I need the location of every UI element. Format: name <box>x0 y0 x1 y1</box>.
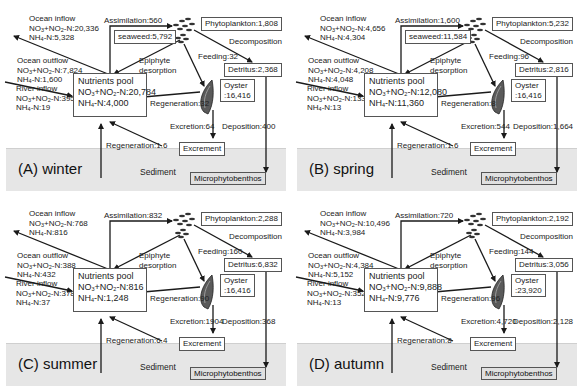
excrement-box: Excrement <box>179 337 225 351</box>
ocean-inflow-nh4: NH4-N:4,304 <box>320 33 385 43</box>
river-inflow-nh4: NH4-N:19 <box>16 103 75 113</box>
assimilation-label: Assimilation:832 <box>104 211 162 221</box>
regeneration-excrement-label: Regeneration:6.4 <box>106 336 167 346</box>
nutrients-pool-box: Nutrients pool NO3+NO2-N:20,784 NH4-N:4,… <box>73 73 147 117</box>
seaweed-box: seaweed:11,584 <box>405 30 471 44</box>
detritus-box: Detritus:2,368 <box>224 63 282 77</box>
river-inflow-label: River inflow NO3+NO2-N:133 NH4-N:13 <box>307 84 366 113</box>
excrement-box: Excrement <box>470 337 516 351</box>
feeding-label: Feeding:144 <box>489 247 533 257</box>
detritus-box: Detritus:2,816 <box>515 63 573 77</box>
detritus-box: Detritus:6,832 <box>224 258 282 272</box>
pool-no3: NO3+NO2-N:20,784 <box>78 87 142 98</box>
feeding-label: Feeding:96 <box>489 52 529 62</box>
feeding-label: Feeding:160 <box>198 247 242 257</box>
excretion-label: Excretion:1904 <box>170 317 223 327</box>
feeding-label: Feeding:32 <box>198 52 238 62</box>
river-inflow-no3: NO3+NO2-N:395 <box>16 94 75 104</box>
regeneration-excrement-label: Regeneration:1.6 <box>106 141 167 151</box>
phytoplankton-icon <box>173 18 195 43</box>
season-panel-autumn: Ocean inflow NO3+NO2-N:10,496 NH4-N:3,98… <box>291 195 581 389</box>
regeneration-oyster-label: Regeneration:90 <box>150 294 209 304</box>
season-title: (B) spring <box>309 160 374 177</box>
decomposition-label: Decomposition <box>520 232 573 242</box>
season-title: (C) summer <box>18 355 97 372</box>
ocean-inflow-no3: NO3+NO2-N:10,496 <box>320 219 390 229</box>
oyster-icon <box>201 275 213 309</box>
pool-nh4: NH4-N:4,000 <box>78 98 142 109</box>
assimilation-label: Assimilation:720 <box>395 211 453 221</box>
assimilation-label: Assimilation:1,600 <box>395 16 460 26</box>
season-title: (A) winter <box>18 160 82 177</box>
regeneration-excrement-label: Regeneration:1.6 <box>397 141 458 151</box>
oyster-box: Oyster :16,416 <box>220 274 255 297</box>
microphytobenthos-box: Microphytobenthos <box>481 172 557 185</box>
regeneration-oyster-label: Regeneration:96 <box>441 294 500 304</box>
ocean-inflow-no3: NO3+NO2-N:768 <box>29 219 88 229</box>
microphytobenthos-box: Microphytobenthos <box>190 367 266 380</box>
river-inflow-no3: NO3+NO2-N:133 <box>307 94 366 104</box>
pool-no3: NO3+NO2-N:12,080 <box>369 87 433 98</box>
decomposition-label: Decomposition <box>229 232 282 242</box>
oyster-box: Oyster :23,920 <box>511 274 546 297</box>
river-inflow-no3: NO3+NO2-N:352 <box>307 289 366 299</box>
river-inflow-nh4: NH4-N:13 <box>307 298 366 308</box>
excretion-label: Excretion:64 <box>170 122 214 132</box>
assimilation-label: Assimilation:560 <box>104 16 162 26</box>
ocean-outflow-no3: NO3+NO2-N:388 <box>17 261 76 271</box>
nutrients-pool-box: Nutrients pool NO3+NO2-N:816 NH4-N:1,248 <box>73 268 147 312</box>
regeneration-excrement-label: Regeneration:8 <box>397 336 452 346</box>
excrement-box: Excrement <box>179 142 225 156</box>
phytoplankton-box: Phytoplankton:1,808 <box>201 17 282 31</box>
phytoplankton-box: Phytoplankton:2,192 <box>492 212 573 226</box>
nutrients-pool-box: Nutrients pool NO3+NO2-N:9,888 NH4-N:9,7… <box>364 268 438 312</box>
phytoplankton-icon <box>173 213 195 238</box>
river-inflow-nh4: NH4-N:13 <box>307 103 366 113</box>
nutrients-pool-box: Nutrients pool NO3+NO2-N:12,080 NH4-N:11… <box>364 73 438 117</box>
deposition-label: Deposition:400 <box>222 122 275 132</box>
phytoplankton-icon <box>464 213 486 238</box>
detritus-box: Detritus:3,056 <box>515 258 573 272</box>
season-panel-summer: Ocean inflow NO3+NO2-N:768 NH4-N:816 Oce… <box>0 195 290 389</box>
ocean-inflow-no3: NO3+NO2-N:20,336 <box>29 24 99 34</box>
oyster-box: Oyster :16,416 <box>511 79 546 102</box>
epiphyte-desorption-label: Epiphyte desorption <box>430 56 467 75</box>
ocean-inflow-nh4: NH4-N:5,328 <box>29 33 99 43</box>
pool-nh4: NH4-N:11,360 <box>369 98 433 109</box>
oyster-box: Oyster :16,416 <box>220 79 255 102</box>
season-panel-winter: Ocean inflow NO3+NO2-N:20,336 NH4-N:5,32… <box>0 0 290 194</box>
epiphyte-desorption-label: Epiphyte desorption <box>139 56 176 75</box>
regeneration-oyster-label: Regeneration:32 <box>150 99 209 109</box>
excrement-box: Excrement <box>470 142 516 156</box>
deposition-label: Deposition:368 <box>222 317 275 327</box>
season-panel-spring: Ocean inflow NO3+NO2-N:4,656 NH4-N:4,304… <box>291 0 581 194</box>
decomposition-label: Decomposition <box>229 37 282 47</box>
microphytobenthos-box: Microphytobenthos <box>481 367 557 380</box>
river-inflow-no3: NO3+NO2-N:378 <box>16 289 75 299</box>
oyster-icon <box>492 275 504 309</box>
deposition-label: Deposition:1,664 <box>513 122 573 132</box>
epiphyte-desorption-label: Epiphyte desorption <box>139 251 176 270</box>
pool-no3: NO3+NO2-N:9,888 <box>369 282 433 293</box>
epiphyte-desorption-label: Epiphyte desorption <box>430 251 467 270</box>
pool-no3: NO3+NO2-N:816 <box>78 282 142 293</box>
sediment-label: Sediment <box>140 362 176 372</box>
excretion-label: Excretion:544 <box>461 122 510 132</box>
seaweed-box: seaweed:5,792 <box>114 30 176 44</box>
sediment-label: Sediment <box>140 167 176 177</box>
ocean-inflow-nh4: NH4-N:3,984 <box>320 228 390 238</box>
ocean-inflow-label: Ocean inflow NO3+NO2-N:10,496 NH4-N:3,98… <box>320 209 390 238</box>
ocean-inflow-label: Ocean inflow NO3+NO2-N:4,656 NH4-N:4,304 <box>320 14 385 43</box>
sediment-label: Sediment <box>431 362 467 372</box>
regeneration-oyster-label: Regeneration:8 <box>441 99 496 109</box>
microphytobenthos-box: Microphytobenthos <box>190 172 266 185</box>
season-title: (D) autumn <box>309 355 384 372</box>
river-inflow-label: River inflow NO3+NO2-N:352 NH4-N:13 <box>307 279 366 308</box>
ocean-inflow-no3: NO3+NO2-N:4,656 <box>320 24 385 34</box>
river-inflow-label: River inflow NO3+NO2-N:395 NH4-N:19 <box>16 84 75 113</box>
ocean-inflow-nh4: NH4-N:816 <box>29 228 88 238</box>
ocean-outflow-label: Ocean outflow NO3+NO2-N:388 NH4-N:432 <box>17 251 76 280</box>
decomposition-label: Decomposition <box>520 37 573 47</box>
deposition-label: Deposition:2,128 <box>513 317 573 327</box>
river-inflow-label: River inflow NO3+NO2-N:378 NH4-N:37 <box>16 279 75 308</box>
